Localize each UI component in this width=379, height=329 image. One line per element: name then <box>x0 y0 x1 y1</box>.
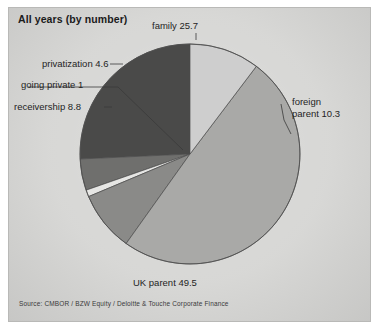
pie-slices <box>80 44 300 264</box>
pie-label-foreign-parent: foreignparent 10.3 <box>292 96 362 119</box>
pie-label-foreign-parent-line1: foreign <box>292 96 321 107</box>
pie-label-receivership: receivership 8.8 <box>14 101 81 113</box>
pie-label-uk-parent: UK parent 49.5 <box>133 277 197 289</box>
pie-chart-figure: All years (by number) <box>0 0 379 329</box>
source-note: Source: CMBOR / BZW Equity / Deloitte & … <box>19 300 229 307</box>
pie-label-foreign-parent-line2: parent 10.3 <box>292 108 340 119</box>
pie-label-going-private: going private 1 <box>21 79 83 91</box>
pie-label-privatization: privatization 4.6 <box>42 58 109 70</box>
pie-label-family: family 25.7 <box>152 20 198 32</box>
